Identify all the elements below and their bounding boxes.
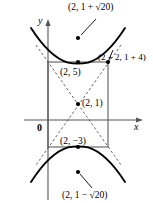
- label-focus-upper: (2, 1 + √20): [68, 2, 113, 12]
- label-vertex-lower: (2, −3): [60, 136, 86, 146]
- label-corner-upper-right: (2 + 2, 1 + 4): [98, 52, 146, 62]
- point-vertex-upper: [76, 60, 80, 64]
- label-center: (2, 1): [82, 98, 103, 108]
- point-center: [76, 102, 80, 106]
- y-axis-label: y: [38, 15, 42, 26]
- label-focus-lower: (2, 1 − √20): [62, 190, 107, 200]
- leader-line-upper-focus: [81, 19, 96, 35]
- leader-line-lower-focus: [80, 174, 92, 188]
- origin-label: 0: [37, 122, 42, 133]
- hyperbola-figure: (2, 1 + √20) (2, 5) (2 + 2, 1 + 4) (2, 1…: [0, 0, 153, 203]
- point-focus-upper: [76, 36, 80, 40]
- hyperbola-svg: [0, 0, 153, 203]
- x-axis-label: x: [134, 121, 138, 132]
- label-vertex-upper: (2, 5): [60, 67, 81, 77]
- point-focus-lower: [76, 170, 80, 174]
